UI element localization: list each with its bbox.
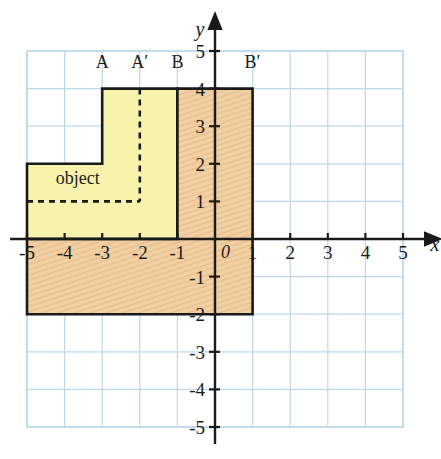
x-tick-label: -4 [57, 242, 73, 263]
vertex-label-a-prime: A′ [131, 52, 148, 72]
x-axis-label: x [430, 233, 440, 255]
y-tick-label: 5 [196, 41, 206, 62]
origin-label: 0 [221, 242, 230, 262]
x-tick-label: -1 [169, 242, 185, 263]
x-tick-label: 4 [361, 242, 371, 263]
y-tick-label: 2 [196, 154, 206, 175]
y-tick-label: -2 [189, 304, 205, 325]
x-tick-label: 1 [248, 242, 258, 263]
x-tick-label: 3 [323, 242, 333, 263]
y-tick-label: -4 [189, 379, 205, 400]
vertex-label-b-prime: B′ [245, 52, 261, 72]
x-tick-label: 5 [398, 242, 408, 263]
diagram-canvas: -5-4-3-2-11234554321-1-2-3-4-5 x y 0 obj… [0, 0, 441, 459]
coordinate-plane-figure: -5-4-3-2-11234554321-1-2-3-4-5 x y 0 obj… [0, 0, 441, 459]
y-tick-label: -3 [189, 342, 205, 363]
y-tick-label: 4 [196, 79, 206, 100]
object-shape-label: object [56, 168, 100, 188]
x-tick-label: -5 [19, 242, 35, 263]
y-tick-label: 1 [196, 191, 206, 212]
vertex-label-a: A [96, 52, 109, 72]
x-tick-label: -3 [94, 242, 110, 263]
vertex-label-b: B [171, 52, 183, 72]
y-axis-label: y [194, 18, 205, 41]
x-tick-label: -2 [132, 242, 148, 263]
y-tick-label: -5 [189, 417, 205, 438]
y-tick-label: 3 [196, 116, 206, 137]
x-tick-label: 2 [285, 242, 295, 263]
y-tick-label: -1 [189, 267, 205, 288]
